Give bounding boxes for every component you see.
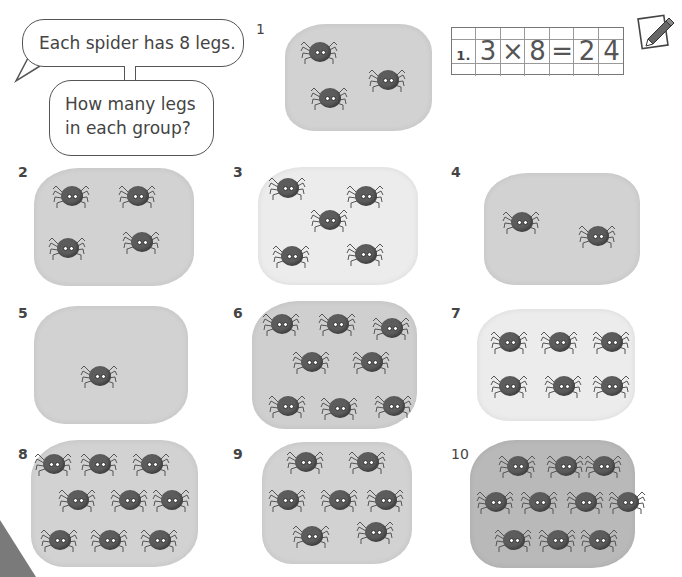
- spider-icon: [490, 370, 528, 402]
- spider-icon: [538, 524, 576, 556]
- spider-icon: [152, 484, 190, 516]
- example-answer: 1. 3 × 8 = 2 4: [451, 36, 624, 66]
- statement-text: Each spider has 8 legs.: [39, 33, 236, 53]
- question-number: 10: [451, 446, 469, 462]
- answer-label: 1.: [451, 40, 476, 63]
- spider-icon: [34, 448, 72, 480]
- spider-icon: [592, 326, 630, 358]
- answer-cell: 2: [575, 36, 600, 66]
- spider-icon: [348, 446, 386, 478]
- spider-icon: [368, 64, 406, 96]
- spider-icon: [320, 392, 358, 424]
- speech-bubble-question: How many legs in each group?: [49, 80, 214, 156]
- question-number: 4: [451, 164, 461, 180]
- spider-icon: [546, 450, 584, 482]
- answer-cell: =: [550, 36, 575, 66]
- question-number: 1: [256, 21, 265, 37]
- spider-icon: [584, 450, 622, 482]
- spider-icon: [268, 390, 306, 422]
- spider-icon: [578, 220, 616, 252]
- question-number: 6: [233, 305, 243, 321]
- answer-cell: ×: [500, 36, 525, 66]
- spider-icon: [286, 446, 324, 478]
- spider-icon: [346, 180, 384, 212]
- spider-icon: [110, 484, 148, 516]
- answer-cell: 4: [599, 36, 624, 66]
- spider-icon: [122, 226, 160, 258]
- spider-icon: [310, 204, 348, 236]
- spider-icon: [268, 172, 306, 204]
- spider-icon: [502, 206, 540, 238]
- spider-icon: [140, 524, 178, 556]
- spider-icon: [40, 524, 78, 556]
- spider-icon: [320, 484, 358, 516]
- spider-icon: [90, 524, 128, 556]
- spider-icon: [540, 326, 578, 358]
- spider-icon: [366, 484, 404, 516]
- spider-icon: [132, 448, 170, 480]
- spider-icon: [476, 486, 514, 518]
- spider-icon: [262, 308, 300, 340]
- spider-icon: [300, 36, 338, 68]
- spider-icon: [318, 308, 356, 340]
- spider-icon: [592, 370, 630, 402]
- question-line-2: in each group?: [65, 116, 213, 140]
- spider-icon: [490, 326, 528, 358]
- spider-icon: [608, 486, 646, 518]
- question-number: 9: [233, 446, 243, 462]
- answer-cell: 3: [476, 36, 501, 66]
- spider-icon: [372, 312, 410, 344]
- spider-icon: [356, 516, 394, 548]
- speech-bubble-statement: Each spider has 8 legs.: [22, 19, 244, 67]
- pencil-notepad-icon: [636, 11, 676, 51]
- spider-icon: [374, 390, 412, 422]
- question-line-1: How many legs: [65, 92, 213, 116]
- spider-icon: [566, 486, 604, 518]
- page-corner-decoration: [0, 520, 36, 577]
- spider-icon: [272, 240, 310, 272]
- question-number: 8: [18, 446, 28, 462]
- spider-icon: [520, 486, 558, 518]
- spider-icon: [48, 232, 86, 264]
- spider-icon: [310, 82, 348, 114]
- spider-icon: [80, 448, 118, 480]
- spider-icon: [118, 180, 156, 212]
- spider-icon: [80, 360, 118, 392]
- question-number: 3: [233, 164, 243, 180]
- spider-icon: [268, 484, 306, 516]
- spider-icon: [292, 520, 330, 552]
- spider-icon: [498, 450, 536, 482]
- spider-icon: [352, 346, 390, 378]
- answer-cell: 8: [525, 36, 550, 66]
- spider-icon: [544, 370, 582, 402]
- spider-icon: [52, 180, 90, 212]
- question-number: 7: [451, 305, 461, 321]
- question-number: 5: [18, 305, 28, 321]
- question-number: 2: [18, 164, 28, 180]
- spider-icon: [346, 238, 384, 270]
- spider-icon: [58, 484, 96, 516]
- spider-icon: [292, 346, 330, 378]
- spider-icon: [494, 524, 532, 556]
- spider-icon: [580, 524, 618, 556]
